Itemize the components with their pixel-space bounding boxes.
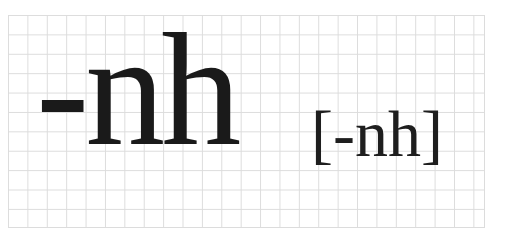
main-word: -nh [36, 10, 237, 170]
pronunciation-label: [-nh] [311, 101, 443, 167]
